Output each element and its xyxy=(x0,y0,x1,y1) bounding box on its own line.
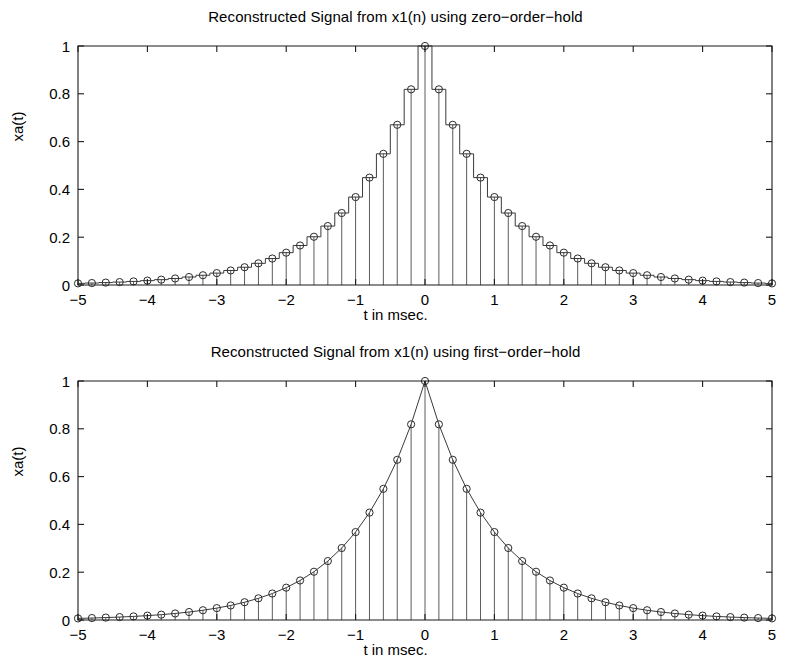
x-tick-label: 5 xyxy=(768,626,776,643)
x-tick-label: 5 xyxy=(768,291,776,308)
tick-labels-group: −5−4−3−2−101234500.20.40.60.81 xyxy=(49,373,776,644)
chart-canvas-zero-order-hold: −5−4−3−2−101234500.20.40.60.81 xyxy=(0,0,791,336)
x-tick-label: −4 xyxy=(139,291,156,308)
x-tick-label: −5 xyxy=(69,626,86,643)
y-tick-label: 0 xyxy=(62,612,70,629)
plot-zero-order-hold: Reconstructed Signal from x1(n) using ze… xyxy=(0,0,791,336)
y-tick-label: 0 xyxy=(62,277,70,294)
figure-container: Reconstructed Signal from x1(n) using ze… xyxy=(0,0,791,671)
stem-lines-group xyxy=(78,46,772,285)
y-tick-label: 0.8 xyxy=(49,420,70,437)
x-tick-label: −3 xyxy=(208,626,225,643)
y-tick-label: 0.2 xyxy=(49,229,70,246)
x-tick-label: −2 xyxy=(278,291,295,308)
x-tick-label: 4 xyxy=(698,626,706,643)
x-tick-label: 0 xyxy=(421,291,429,308)
y-tick-label: 1 xyxy=(62,38,70,55)
y-tick-label: 0.6 xyxy=(49,133,70,150)
x-tick-label: −5 xyxy=(69,291,86,308)
x-tick-label: 1 xyxy=(490,291,498,308)
x-tick-label: 4 xyxy=(698,291,706,308)
x-tick-label: −1 xyxy=(347,626,364,643)
y-tick-label: 1 xyxy=(62,373,70,390)
y-tick-label: 0.2 xyxy=(49,564,70,581)
stem-lines-group xyxy=(78,381,772,620)
x-tick-label: −3 xyxy=(208,291,225,308)
y-tick-label: 0.4 xyxy=(49,181,70,198)
tick-labels-group: −5−4−3−2−101234500.20.40.60.81 xyxy=(49,38,776,309)
x-tick-label: 3 xyxy=(629,626,637,643)
x-tick-label: 2 xyxy=(560,291,568,308)
x-tick-label: 2 xyxy=(560,626,568,643)
x-tick-label: 0 xyxy=(421,626,429,643)
x-tick-label: 3 xyxy=(629,291,637,308)
x-tick-label: 1 xyxy=(490,626,498,643)
x-tick-label: −4 xyxy=(139,626,156,643)
chart-canvas-first-order-hold: −5−4−3−2−101234500.20.40.60.81 xyxy=(0,335,791,671)
y-tick-label: 0.4 xyxy=(49,516,70,533)
x-tick-label: −2 xyxy=(278,626,295,643)
plot-first-order-hold: Reconstructed Signal from x1(n) using fi… xyxy=(0,335,791,671)
y-tick-label: 0.8 xyxy=(49,85,70,102)
x-tick-label: −1 xyxy=(347,291,364,308)
y-tick-label: 0.6 xyxy=(49,468,70,485)
